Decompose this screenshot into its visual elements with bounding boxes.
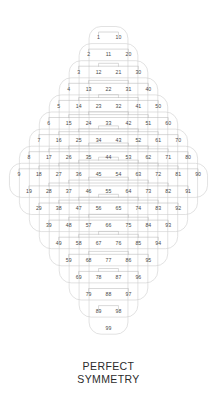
- number-label: 12: [96, 69, 102, 75]
- number-label: 24: [86, 120, 92, 126]
- number-label: 59: [66, 257, 72, 263]
- number-label: 32: [116, 103, 122, 109]
- number-label: 36: [76, 171, 82, 177]
- number-label: 33: [106, 120, 112, 126]
- number-label: 88: [106, 291, 112, 297]
- number-label: 78: [96, 274, 102, 280]
- number-label: 60: [165, 120, 171, 126]
- number-label: 61: [155, 137, 161, 143]
- perfect-symmetry-figure: 1102112031221304132231405142332415061524…: [0, 0, 217, 402]
- number-label: 83: [155, 205, 161, 211]
- number-label: 8: [27, 154, 30, 160]
- number-label: 81: [175, 171, 181, 177]
- number-label: 75: [126, 222, 132, 228]
- number-label: 77: [106, 257, 112, 263]
- number-label: 21: [116, 69, 122, 75]
- bracket-lines-group: [19, 32, 198, 309]
- number-label: 50: [155, 103, 161, 109]
- number-label: 28: [46, 188, 52, 194]
- number-label: 65: [116, 205, 122, 211]
- caption-line-symmetry: SYMMETRY: [0, 373, 217, 386]
- number-label: 4: [67, 86, 70, 92]
- number-label: 34: [96, 137, 102, 143]
- number-label: 35: [86, 154, 92, 160]
- number-label: 5: [57, 103, 60, 109]
- number-label: 40: [145, 86, 151, 92]
- number-label: 56: [96, 205, 102, 211]
- number-label: 44: [106, 154, 112, 160]
- number-label: 55: [106, 188, 112, 194]
- number-label: 41: [135, 103, 141, 109]
- number-label: 70: [175, 137, 181, 143]
- number-label: 71: [165, 154, 171, 160]
- number-label: 69: [76, 274, 82, 280]
- number-label: 62: [145, 154, 151, 160]
- number-label: 82: [165, 188, 171, 194]
- number-label: 99: [106, 325, 112, 331]
- number-label: 17: [46, 154, 52, 160]
- number-label: 96: [135, 274, 141, 280]
- number-label: 84: [145, 222, 151, 228]
- number-label: 91: [185, 188, 191, 194]
- number-label: 42: [126, 120, 132, 126]
- number-label: 95: [145, 257, 151, 263]
- number-label: 94: [155, 240, 161, 246]
- caption-line-perfect: PERFECT: [0, 360, 217, 373]
- number-label: 53: [126, 154, 132, 160]
- number-label: 93: [165, 222, 171, 228]
- number-label: 46: [86, 188, 92, 194]
- number-label: 27: [56, 171, 62, 177]
- number-label: 79: [86, 291, 92, 297]
- number-label: 45: [96, 171, 102, 177]
- number-label: 16: [56, 137, 62, 143]
- number-label: 47: [76, 205, 82, 211]
- number-label: 57: [86, 222, 92, 228]
- number-label: 86: [126, 257, 132, 263]
- number-label: 39: [46, 222, 52, 228]
- number-label: 87: [116, 274, 122, 280]
- number-label: 92: [175, 205, 181, 211]
- number-label: 80: [185, 154, 191, 160]
- number-label: 20: [126, 51, 132, 57]
- number-label: 76: [116, 240, 122, 246]
- number-label: 11: [106, 51, 111, 57]
- number-label: 89: [96, 308, 102, 314]
- number-label: 18: [36, 171, 42, 177]
- bracket-line: [79, 66, 139, 69]
- bracket-line: [19, 169, 198, 172]
- number-label: 22: [106, 86, 112, 92]
- number-label: 26: [66, 154, 72, 160]
- bracket-line: [79, 271, 139, 274]
- number-label: 2: [87, 51, 90, 57]
- number-label: 29: [36, 205, 42, 211]
- number-label: 30: [135, 69, 141, 75]
- number-label: 25: [76, 137, 82, 143]
- number-label: 73: [145, 188, 151, 194]
- number-label: 49: [56, 240, 62, 246]
- number-label: 1: [97, 34, 100, 40]
- bracket-line: [59, 237, 159, 240]
- number-label: 6: [47, 120, 50, 126]
- number-label: 74: [135, 205, 141, 211]
- number-label: 38: [56, 205, 62, 211]
- number-label: 7: [37, 137, 40, 143]
- number-label: 43: [116, 137, 122, 143]
- number-label: 9: [18, 171, 21, 177]
- number-label: 64: [126, 188, 132, 194]
- number-label: 97: [126, 291, 132, 297]
- number-label: 23: [96, 103, 102, 109]
- number-label: 3: [77, 69, 80, 75]
- number-label: 68: [86, 257, 92, 263]
- number-label: 10: [116, 34, 122, 40]
- number-label: 48: [66, 222, 72, 228]
- number-label: 13: [86, 86, 92, 92]
- number-label: 15: [66, 120, 72, 126]
- number-label: 98: [116, 308, 122, 314]
- number-label: 63: [135, 171, 141, 177]
- number-label: 19: [26, 188, 32, 194]
- number-label: 72: [155, 171, 161, 177]
- number-label: 14: [76, 103, 82, 109]
- number-label: 52: [135, 137, 141, 143]
- number-label: 90: [195, 171, 201, 177]
- number-label: 85: [135, 240, 141, 246]
